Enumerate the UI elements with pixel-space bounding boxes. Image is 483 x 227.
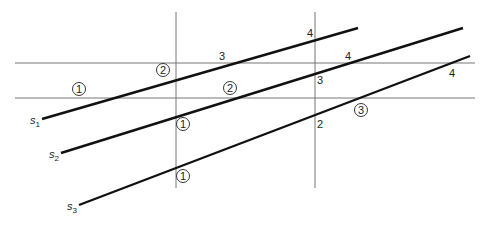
label-s1: s1 (30, 114, 41, 129)
diagram-canvas: s1 s2 s3 1 2 3 4 1 2 3 4 1 2 3 4 (0, 0, 483, 227)
order-label: 1 (180, 118, 186, 130)
label-s3: s3 (67, 200, 78, 215)
label-s2: s2 (49, 148, 60, 163)
line-s3 (79, 56, 470, 205)
order-label: 2 (317, 118, 323, 130)
order-label: 1 (76, 83, 82, 95)
order-label: 1 (180, 170, 186, 182)
order-label: 4 (345, 50, 351, 62)
order-label: 2 (227, 82, 233, 94)
order-label: 3 (219, 50, 225, 62)
grid-lines (15, 12, 475, 188)
line-name-labels: s1 s2 s3 (30, 114, 78, 215)
order-label: 3 (317, 74, 323, 86)
line-s1 (42, 28, 358, 119)
series-lines (42, 28, 470, 205)
order-label: 3 (358, 104, 364, 116)
s3-labels: 1 2 3 4 (177, 67, 456, 183)
order-label: 4 (307, 27, 313, 39)
order-label: 4 (449, 67, 455, 79)
order-label: 2 (160, 64, 166, 76)
